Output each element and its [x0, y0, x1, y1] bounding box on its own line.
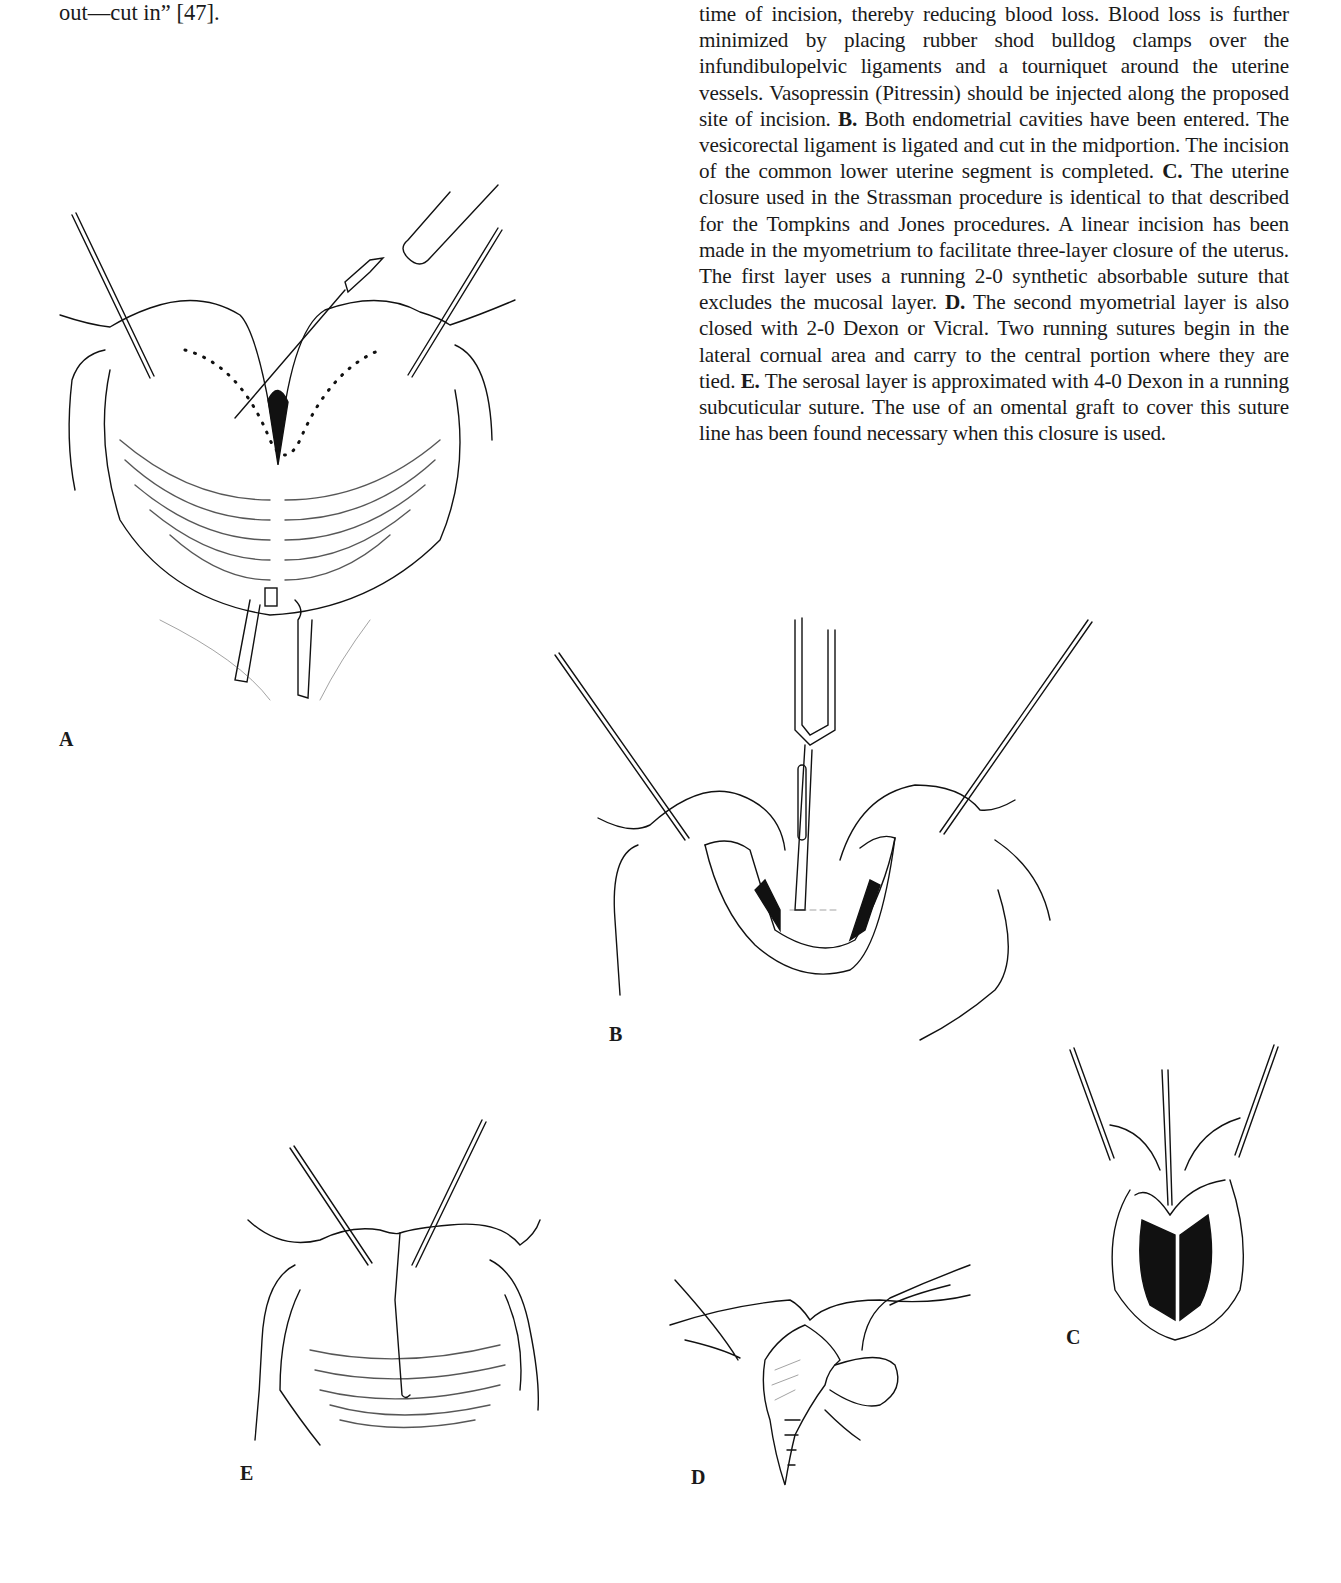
caption-label-d: D. [945, 290, 965, 314]
illustration-e [220, 1100, 580, 1480]
figure-caption: time of incision, thereby reducing blood… [699, 1, 1289, 446]
caption-label-c: C. [1162, 159, 1182, 183]
figure-label-e: E [240, 1462, 253, 1485]
illustration-b [540, 600, 1100, 1060]
figure-label-b: B [609, 1023, 622, 1046]
caption-label-b: B. [838, 107, 857, 131]
figure-label-c: C [1066, 1326, 1080, 1349]
caption-text-e: The serosal layer is approximated with 4… [699, 369, 1289, 445]
body-text-fragment: out—cut in” [47]. [59, 0, 220, 26]
illustration-d [650, 1240, 980, 1500]
figure-label-a: A [59, 728, 73, 751]
illustration-c [1050, 1030, 1310, 1350]
figure-label-d: D [691, 1466, 705, 1489]
caption-label-e: E. [741, 369, 760, 393]
illustration-a [40, 140, 520, 740]
